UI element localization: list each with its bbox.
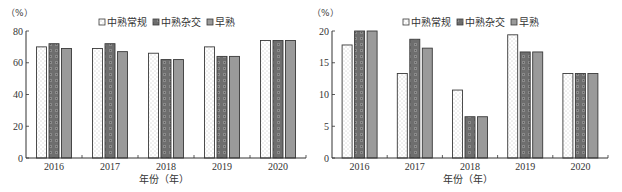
- bar: [230, 56, 240, 158]
- bar: [205, 47, 215, 158]
- bar: [93, 48, 103, 158]
- x-axis-title: 年份（年）: [443, 173, 493, 185]
- chart-left: （%）中熟常规中熟杂交早熟201620172018201920200204060…: [0, 0, 311, 192]
- legend-label: 早熟: [215, 16, 235, 28]
- x-tick-label: 2017: [405, 161, 425, 172]
- y-tick-label: 10: [319, 89, 329, 100]
- legend-label: 中熟杂交: [161, 16, 201, 28]
- bar: [508, 35, 518, 158]
- y-unit-label: （%）: [312, 8, 339, 18]
- x-tick-label: 2020: [570, 161, 590, 172]
- x-tick-label: 2017: [100, 161, 120, 172]
- legend-swatch-icon: [207, 19, 213, 25]
- y-tick-label: 15: [319, 57, 329, 68]
- y-tick-label: 60: [13, 57, 23, 68]
- y-tick-label: 20: [13, 121, 23, 132]
- bar: [575, 74, 585, 158]
- legend-swatch-icon: [99, 19, 105, 25]
- y-tick-label: 0: [18, 153, 23, 164]
- bar: [367, 31, 377, 158]
- bar: [478, 117, 488, 158]
- bar: [410, 39, 420, 158]
- bar: [355, 31, 365, 158]
- legend-item: 中熟杂交: [457, 16, 505, 28]
- chart-right: （%）中熟常规中熟杂交早熟201620172018201920200510152…: [311, 0, 622, 192]
- bar: [273, 41, 283, 158]
- x-axis-title: 年份（年）: [139, 173, 189, 185]
- legend-label: 中熟杂交: [465, 16, 505, 28]
- legend-item: 中熟杂交: [153, 16, 201, 28]
- y-tick-label: 80: [13, 26, 23, 37]
- y-tick-label: 20: [319, 26, 329, 37]
- bar: [465, 117, 475, 158]
- legend-swatch-icon: [403, 19, 409, 25]
- bar: [261, 41, 271, 158]
- bar: [161, 60, 171, 158]
- bar: [422, 48, 432, 158]
- x-tick-label: 2019: [515, 161, 535, 172]
- bar: [217, 56, 227, 158]
- legend-label: 中熟常规: [107, 16, 147, 28]
- x-tick-label: 2016: [44, 161, 64, 172]
- bar: [118, 52, 128, 158]
- bar: [563, 74, 573, 158]
- bar: [342, 45, 352, 158]
- bar: [105, 44, 115, 158]
- x-tick-label: 2018: [460, 161, 480, 172]
- bar: [286, 41, 296, 158]
- legend-label: 中熟常规: [411, 16, 451, 28]
- bar: [62, 48, 72, 158]
- legend-swatch-icon: [511, 19, 517, 25]
- bar: [174, 60, 184, 158]
- bar: [49, 44, 59, 158]
- legend-item: 早熟: [207, 16, 235, 28]
- x-tick-label: 2020: [268, 161, 288, 172]
- bar: [453, 90, 463, 158]
- bar: [397, 74, 407, 158]
- y-tick-label: 0: [324, 153, 329, 164]
- bar: [533, 52, 543, 158]
- x-tick-label: 2019: [212, 161, 232, 172]
- y-unit-label: （%）: [6, 8, 33, 18]
- legend-swatch-icon: [153, 19, 159, 25]
- y-tick-label: 40: [13, 89, 23, 100]
- bar: [149, 53, 159, 158]
- legend-item: 中熟常规: [403, 16, 451, 28]
- x-tick-label: 2016: [350, 161, 370, 172]
- legend-item: 早熟: [511, 16, 539, 28]
- bar: [520, 52, 530, 158]
- bar: [588, 74, 598, 158]
- legend-swatch-icon: [457, 19, 463, 25]
- legend-item: 中熟常规: [99, 16, 147, 28]
- bar: [37, 47, 47, 158]
- y-tick-label: 5: [324, 121, 329, 132]
- legend-label: 早熟: [519, 16, 539, 28]
- x-tick-label: 2018: [156, 161, 176, 172]
